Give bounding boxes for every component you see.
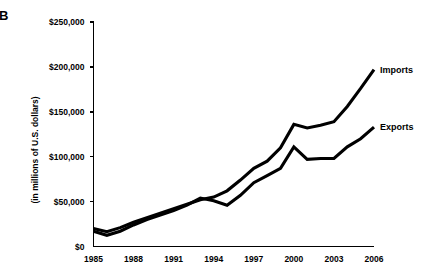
x-axis-tick-label: 1991 bbox=[164, 254, 183, 264]
chart-background bbox=[0, 0, 443, 277]
x-axis-tick-label: 1997 bbox=[244, 254, 263, 264]
y-axis-tick-label: $100,000 bbox=[49, 152, 85, 162]
series-label-imports: Imports bbox=[380, 65, 413, 75]
x-axis-tick-label: 1988 bbox=[124, 254, 143, 264]
x-axis-tick-label: 2006 bbox=[365, 254, 384, 264]
y-axis-tick-label: $50,000 bbox=[54, 197, 85, 207]
series-label-exports: Exports bbox=[380, 122, 414, 132]
panel-letter: B bbox=[0, 8, 8, 23]
y-axis-tick-label: $250,000 bbox=[49, 17, 85, 27]
line-chart: B (in millions of U.S. dollars) $0$50,00… bbox=[0, 0, 443, 277]
x-axis-tick-label: 1985 bbox=[84, 254, 103, 264]
y-axis-tick-label: $0 bbox=[75, 242, 85, 252]
x-axis-tick-label: 2003 bbox=[324, 254, 343, 264]
x-axis-tick-label: 1994 bbox=[204, 254, 223, 264]
x-axis-tick-label: 2000 bbox=[284, 254, 303, 264]
y-axis-tick-label: $150,000 bbox=[49, 107, 85, 117]
figure-root: B (in millions of U.S. dollars) $0$50,00… bbox=[0, 0, 443, 277]
y-axis-tick-label: $200,000 bbox=[49, 62, 85, 72]
y-axis-title: (in millions of U.S. dollars) bbox=[30, 96, 40, 203]
